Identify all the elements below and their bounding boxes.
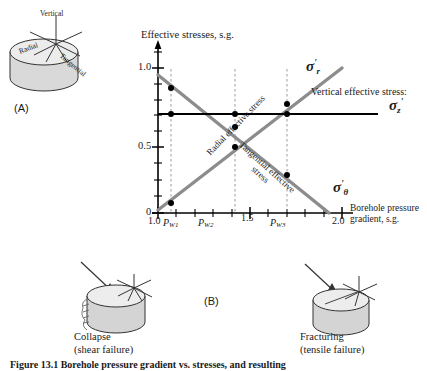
y-tick-label-0.5: 0.5 <box>138 140 151 151</box>
x-tick-label-1.5: 1.5 <box>241 213 254 224</box>
chart-y-axis-title: Effective stresses, s.g. <box>141 29 234 40</box>
x-tick-label-2.0: 2.0 <box>332 216 345 227</box>
y-tick-label-1.0: 1.0 <box>138 61 151 72</box>
chart-x-axis-title: Borehole pressure gradient, s.g. <box>350 203 426 225</box>
marker-label-pw3: PW3 <box>270 218 285 229</box>
x-tick-label-1.0: 1.0 <box>148 216 161 227</box>
collapse-title: Collapse <box>74 331 111 342</box>
fracturing-caption: Fracturing (tensile failure) <box>300 330 364 356</box>
chart-axes <box>152 40 353 213</box>
collapse-caption: Collapse (shear failure) <box>74 330 133 356</box>
marker-label-pw2: PW2 <box>198 218 213 229</box>
figure-caption: Figure 13.1 Borehole pressure gradient v… <box>10 360 286 371</box>
collapse-cylinder-diagram <box>55 252 225 342</box>
fracturing-cylinder-diagram <box>285 252 427 342</box>
fracturing-subtitle: (tensile failure) <box>300 344 364 355</box>
series-symbol-tangential: σ′θ <box>333 178 348 197</box>
collapse-subtitle: (shear failure) <box>74 344 133 355</box>
marker-label-pw1: PW1 <box>163 218 178 229</box>
series-symbol-vertical: σz′ <box>389 96 403 115</box>
fracturing-title: Fracturing <box>300 331 344 342</box>
series-symbol-radial: σ′r <box>306 57 320 76</box>
